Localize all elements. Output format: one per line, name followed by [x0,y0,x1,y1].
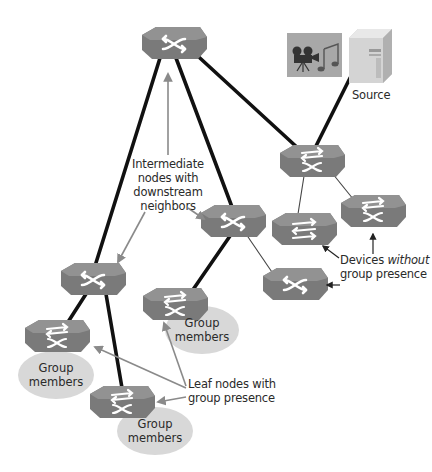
group-members-label-mid: Group members [166,316,238,344]
devices-label-prefix: Devices [340,253,387,267]
source-label: Source [352,88,390,102]
intermediate-nodes-label: Intermediate nodes with downstream neigh… [120,157,216,213]
arrow-to-left-intermediate [118,212,145,262]
arrow-to-leaf-left [95,347,186,388]
device-without-group-1 [272,213,337,245]
video-camera-music-icon [287,33,342,77]
leaf-switch-left [25,320,90,352]
source-switch [280,145,345,177]
intermediate-label-line-4: neighbors [120,199,216,213]
group-members-line-2: members [20,375,92,389]
link-mid-to-leaf-mid [190,236,230,294]
device-without-group-3 [263,268,328,300]
link-source-to-source-switch [315,78,350,148]
leaf-label-line-1: Leaf nodes with [188,377,276,391]
devices-label-line-2: group presence [340,267,429,281]
intermediate-label-line-3: downstream [120,185,216,199]
link-left-to-leaf-left [68,294,86,322]
intermediate-switch-left [61,263,126,295]
leaf-switch-bottom [90,386,155,418]
arrow-to-device-1 [323,246,339,258]
root-switch [142,27,207,59]
group-members-line-1: Group [20,361,92,375]
arrow-to-leaf-bottom [158,397,186,402]
leaf-nodes-label: Leaf nodes with group presence [188,377,276,405]
group-members-label-bottom: Group members [119,417,191,445]
link-left-to-leaf-bottom [106,294,122,388]
group-members-label-left: Group members [20,361,92,389]
devices-without-group-label: Devices without group presence [340,253,429,281]
intermediate-label-line-2: nodes with [120,171,216,185]
intermediate-label-line-1: Intermediate [120,157,216,171]
group-members-line-1: Group [119,417,191,431]
server-icon [349,29,392,83]
device-without-group-2 [341,195,406,227]
annotation-arrows [95,74,204,402]
link-source-switch-to-device-1 [298,176,304,214]
leaf-label-line-2: group presence [188,391,276,405]
group-members-line-2: members [119,431,191,445]
devices-label-italic: without [387,253,429,267]
group-members-line-2: members [166,330,238,344]
group-members-line-1: Group [166,316,238,330]
